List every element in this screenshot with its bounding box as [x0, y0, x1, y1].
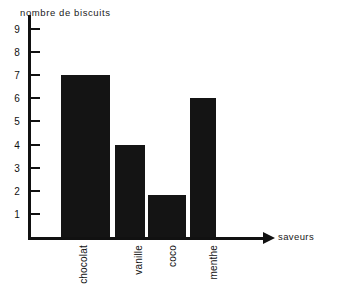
bar-coco[interactable] [148, 195, 186, 237]
category-label-menthe: menthe [208, 245, 219, 280]
category-label-coco: coco [167, 245, 178, 267]
bar-chocolat[interactable] [61, 75, 110, 237]
category-label-vanille: vanille [133, 245, 144, 275]
bar-menthe[interactable] [190, 98, 216, 237]
plot-area [0, 0, 339, 240]
x-axis-title: saveurs [278, 231, 314, 242]
bar-chart: nombre de biscuits 123456789 chocolatvan… [0, 0, 339, 299]
category-label-chocolat: chocolat [78, 245, 89, 284]
bar-vanille[interactable] [115, 145, 145, 238]
